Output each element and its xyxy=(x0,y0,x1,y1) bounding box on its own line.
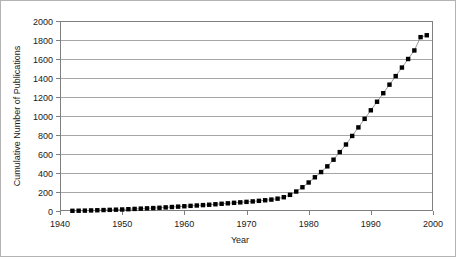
data-point-1943 xyxy=(76,209,80,213)
data-point-1954 xyxy=(145,206,149,210)
data-point-1996 xyxy=(406,57,410,61)
data-point-1989 xyxy=(362,117,366,121)
data-point-1968 xyxy=(232,201,236,205)
data-point-1976 xyxy=(282,195,286,199)
chart-figure: 1940195019601970198019902000 02004006008… xyxy=(0,0,456,257)
data-point-1982 xyxy=(319,170,323,174)
y-tick-label-1200: 1200 xyxy=(33,93,53,103)
y-tick-label-1000: 1000 xyxy=(33,112,53,122)
data-point-1967 xyxy=(226,201,230,205)
data-point-1981 xyxy=(313,175,317,179)
data-point-1957 xyxy=(163,205,167,209)
data-point-1970 xyxy=(244,200,248,204)
data-point-1988 xyxy=(356,125,360,129)
data-point-1963 xyxy=(201,203,205,207)
data-point-1962 xyxy=(195,203,199,207)
data-point-1949 xyxy=(114,207,118,211)
data-point-1993 xyxy=(387,82,391,86)
data-point-1999 xyxy=(425,33,429,37)
data-point-1972 xyxy=(257,199,261,203)
data-point-1975 xyxy=(275,196,279,200)
data-point-1958 xyxy=(170,205,174,209)
data-point-1951 xyxy=(126,207,130,211)
data-point-1947 xyxy=(101,208,105,212)
data-point-1980 xyxy=(306,180,310,184)
data-point-1986 xyxy=(344,142,348,146)
data-point-1974 xyxy=(269,197,273,201)
x-tick-label-1950: 1950 xyxy=(112,219,132,229)
data-point-1960 xyxy=(182,204,186,208)
x-tick-label-2000: 2000 xyxy=(423,219,443,229)
data-point-1966 xyxy=(219,202,223,206)
data-point-1955 xyxy=(151,206,155,210)
data-point-1979 xyxy=(300,185,304,189)
data-point-1987 xyxy=(350,134,354,138)
data-point-1991 xyxy=(375,100,379,104)
data-point-1944 xyxy=(83,208,87,212)
data-point-1959 xyxy=(176,204,180,208)
data-point-1971 xyxy=(251,199,255,203)
data-point-1998 xyxy=(418,35,422,39)
data-point-1946 xyxy=(95,208,99,212)
data-point-1969 xyxy=(238,200,242,204)
x-tick-label-1940: 1940 xyxy=(50,219,70,229)
data-point-1992 xyxy=(381,91,385,95)
data-point-1995 xyxy=(400,65,404,69)
data-point-1977 xyxy=(288,193,292,197)
y-tick-label-400: 400 xyxy=(38,169,53,179)
data-point-1945 xyxy=(89,208,93,212)
y-tick-label-2000: 2000 xyxy=(33,17,53,27)
x-tick-label-1960: 1960 xyxy=(174,219,194,229)
data-point-1973 xyxy=(263,198,267,202)
data-point-1956 xyxy=(157,206,161,210)
data-point-1942 xyxy=(70,209,74,213)
data-point-1950 xyxy=(120,207,124,211)
y-tick-label-800: 800 xyxy=(38,131,53,141)
data-point-1978 xyxy=(294,189,298,193)
y-axis-title: Cumulative Number of Publications xyxy=(12,45,22,186)
y-tick-label-0: 0 xyxy=(48,207,53,217)
data-point-1983 xyxy=(325,164,329,168)
y-tick-label-1800: 1800 xyxy=(33,36,53,46)
data-point-1952 xyxy=(132,207,136,211)
data-point-1961 xyxy=(188,204,192,208)
data-point-1997 xyxy=(412,48,416,52)
y-tick-label-1600: 1600 xyxy=(33,55,53,65)
x-tick-label-1990: 1990 xyxy=(361,219,381,229)
data-point-1964 xyxy=(207,203,211,207)
y-tick-label-1400: 1400 xyxy=(33,74,53,84)
data-point-1948 xyxy=(108,208,112,212)
data-point-1965 xyxy=(213,202,217,206)
x-tick-label-1970: 1970 xyxy=(236,219,256,229)
cumulative-publications-chart: 1940195019601970198019902000 02004006008… xyxy=(0,0,456,257)
data-point-1984 xyxy=(331,158,335,162)
x-tick-label-1980: 1980 xyxy=(299,219,319,229)
x-axis-title: Year xyxy=(231,235,249,245)
data-point-1953 xyxy=(139,206,143,210)
y-tick-label-600: 600 xyxy=(38,150,53,160)
data-point-1985 xyxy=(338,150,342,154)
data-point-1990 xyxy=(369,108,373,112)
y-tick-label-200: 200 xyxy=(38,188,53,198)
data-point-1994 xyxy=(394,74,398,78)
